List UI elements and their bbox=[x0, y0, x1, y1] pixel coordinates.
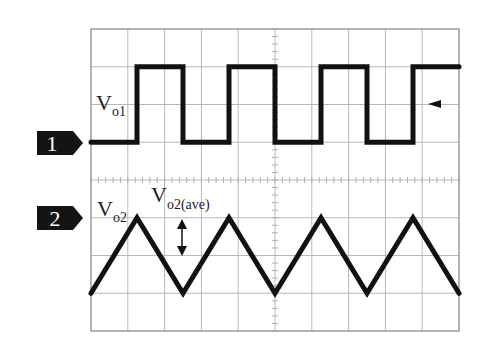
double-arrow-icon bbox=[177, 219, 187, 256]
vo1-label: Vo1 bbox=[96, 90, 126, 119]
vo1-label-main: V bbox=[96, 90, 112, 115]
vo1-label-sub: o1 bbox=[112, 104, 126, 119]
vo2-average-label-sub: o2(ave) bbox=[167, 197, 210, 213]
vo2-label-main: V bbox=[97, 196, 113, 221]
channel-1-marker: 1 bbox=[37, 131, 83, 156]
channel-1-marker-shape bbox=[37, 131, 83, 155]
channel-2-marker: 2 bbox=[37, 206, 83, 231]
oscilloscope-display: 1 2 Vo1 Vo2 Vo2(ave) bbox=[0, 0, 477, 352]
channel-2-marker-label: 2 bbox=[50, 206, 61, 231]
vo2-average-label-main: V bbox=[151, 182, 167, 207]
vo2-label-sub: o2 bbox=[113, 210, 127, 225]
vo2-label: Vo2 bbox=[97, 196, 127, 225]
channel-1-marker-label: 1 bbox=[47, 131, 58, 156]
trigger-level-arrow-icon bbox=[428, 100, 441, 108]
